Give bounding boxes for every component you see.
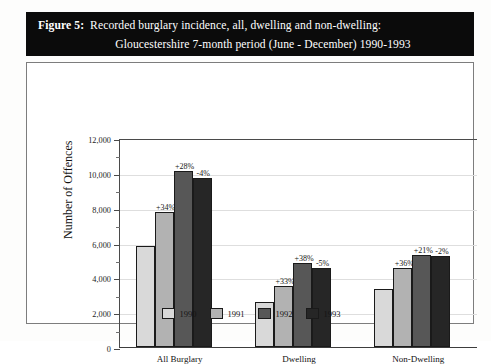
bar-1992-all-burglary[interactable]: +28% — [174, 171, 193, 347]
y-axis-tick-label: 6,000 — [92, 240, 111, 249]
legend-swatch-1991 — [210, 308, 223, 319]
legend-swatch-1993 — [306, 308, 319, 319]
figure-title-line-1: Figure 5:Recorded burglary incidence, al… — [36, 16, 464, 35]
bar-percent-label: +36% — [395, 259, 414, 268]
bar-percent-label: +21% — [414, 246, 433, 255]
figure-title-line-2: Gloucestershire 7-month period (June - D… — [36, 35, 464, 54]
bar-1991-all-burglary[interactable]: +34% — [155, 212, 174, 348]
y-axis-title: Number of Offences — [61, 141, 76, 239]
y-axis-tick-label: 12,000 — [88, 136, 111, 145]
y-axis-tick-label: 4,000 — [92, 275, 111, 284]
y-axis-tick — [114, 349, 120, 350]
chart-legend: 1990199119921993 — [27, 308, 475, 319]
bar-1992-non-dwelling[interactable]: +21% — [412, 255, 431, 347]
bar-percent-label: +28% — [175, 162, 194, 171]
bar-1990-all-burglary[interactable] — [136, 246, 155, 347]
bar-percent-label: +33% — [275, 277, 294, 286]
legend-label-1993: 1993 — [324, 309, 341, 319]
figure-title-text-1: Recorded burglary incidence, all, dwelli… — [90, 19, 381, 32]
bar-percent-label: +34% — [156, 203, 175, 212]
legend-label-1990: 1990 — [180, 309, 197, 319]
bar-percent-label: -5% — [316, 259, 329, 268]
bar-1993-non-dwelling[interactable]: -2% — [431, 256, 450, 347]
y-axis-tick-label: 0 — [107, 345, 111, 354]
x-axis-category-label: Dwelling — [282, 354, 316, 364]
figure-number-label: Figure 5: — [38, 19, 84, 32]
x-axis-category-label: All Burglary — [157, 354, 203, 364]
y-axis-tick-label: 8,000 — [92, 205, 111, 214]
legend-item-1990[interactable]: 1990 — [162, 308, 197, 319]
y-axis-tick-label: 10,000 — [88, 170, 111, 179]
legend-item-1991[interactable]: 1991 — [210, 308, 245, 319]
figure-title-band: Figure 5:Recorded burglary incidence, al… — [26, 12, 474, 56]
legend-item-1993[interactable]: 1993 — [306, 308, 341, 319]
bar-percent-label: -4% — [197, 169, 210, 178]
legend-label-1992: 1992 — [276, 309, 293, 319]
bar-percent-label: +38% — [294, 254, 313, 263]
legend-label-1991: 1991 — [228, 309, 245, 319]
x-axis-category-label: Non-Dwelling — [392, 354, 444, 364]
bar-percent-label: -2% — [435, 247, 448, 256]
bar-1992-dwelling[interactable]: +38% — [293, 263, 312, 347]
legend-swatch-1990 — [162, 308, 175, 319]
legend-swatch-1992 — [258, 308, 271, 319]
chart-container: Number of Offences 02,0004,0006,0008,000… — [26, 62, 474, 324]
bar-1993-all-burglary[interactable]: -4% — [193, 178, 212, 347]
legend-item-1992[interactable]: 1992 — [258, 308, 293, 319]
